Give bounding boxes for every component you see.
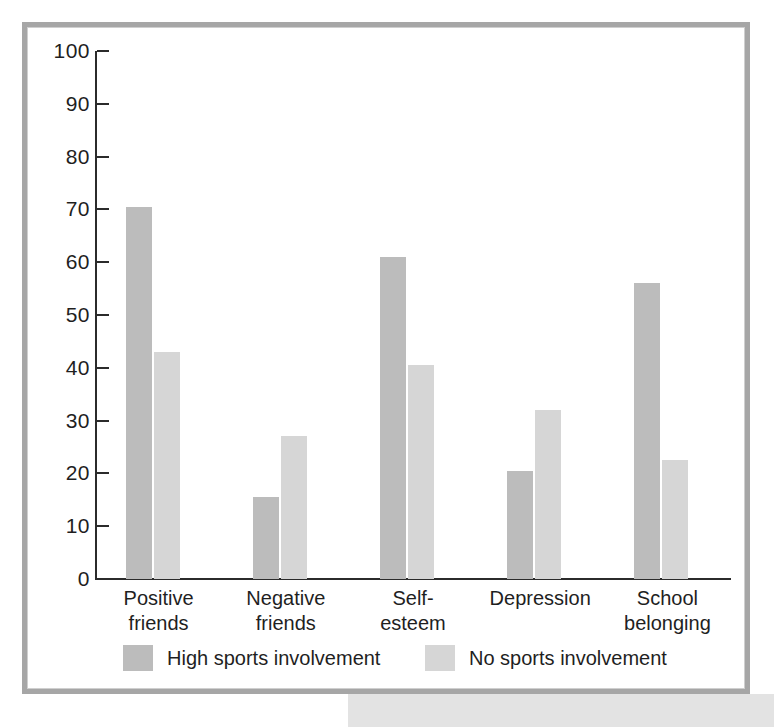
y-axis-tick-value: 0: [38, 568, 90, 589]
x-axis-category-label: Positivefriends: [85, 586, 232, 636]
bar: [126, 207, 152, 579]
x-axis-category-label: Negativefriends: [212, 586, 359, 636]
y-axis-tick-label: 80: [0, 146, 90, 167]
category-label-line1: School: [594, 586, 741, 611]
category-label-line1: Depression: [467, 586, 614, 611]
category-label-line2: belonging: [594, 611, 741, 636]
y-axis-tick-value: 80: [38, 146, 90, 167]
bar: [281, 436, 307, 579]
chart-legend: High sports involvementNo sports involve…: [95, 645, 731, 679]
y-axis-tick-value: 10: [38, 515, 90, 536]
bar: [253, 497, 279, 579]
y-axis-tick-label: 90: [0, 93, 90, 114]
legend-item: No sports involvement: [425, 645, 667, 671]
category-label-line1: Positive: [85, 586, 232, 611]
y-axis-tick-label: 0: [0, 568, 90, 589]
y-axis-tick-value: 60: [38, 251, 90, 272]
y-axis-tick-value: 90: [38, 93, 90, 114]
y-axis-tick-label: 60: [0, 251, 90, 272]
y-axis-tick-value: 50: [38, 304, 90, 325]
y-axis-tick-label: 20: [0, 462, 90, 483]
y-axis-tick-label: 100: [0, 40, 90, 61]
y-axis-tick-label: 30: [0, 410, 90, 431]
y-axis-tick-value: 20: [38, 462, 90, 483]
y-axis-tick-value: 30: [38, 410, 90, 431]
x-axis-category-labels: PositivefriendsNegativefriendsSelf-estee…: [95, 586, 731, 638]
bars-layer: [95, 51, 731, 579]
y-axis-tick-label: 40: [0, 357, 90, 378]
bar-chart: 1009080706050403020100 PositivefriendsNe…: [0, 0, 774, 727]
x-axis-category-label: Schoolbelonging: [594, 586, 741, 636]
category-label-line2: esteem: [339, 611, 486, 636]
bar: [634, 283, 660, 579]
category-label-line1: Negative: [212, 586, 359, 611]
category-label-line1: Self-: [339, 586, 486, 611]
category-label-line2: friends: [212, 611, 359, 636]
y-axis-tick-label: 50: [0, 304, 90, 325]
legend-swatch: [425, 645, 455, 671]
y-axis-tick-value: 100: [38, 40, 90, 61]
bar: [380, 257, 406, 579]
y-axis-tick-value: 40: [38, 357, 90, 378]
bar: [662, 460, 688, 579]
bar: [154, 352, 180, 579]
bar: [408, 365, 434, 579]
y-axis-tick-value: 70: [38, 198, 90, 219]
category-label-line2: friends: [85, 611, 232, 636]
legend-label: High sports involvement: [167, 648, 380, 668]
legend-swatch: [123, 645, 153, 671]
legend-item: High sports involvement: [123, 645, 380, 671]
legend-label: No sports involvement: [469, 648, 667, 668]
bar: [507, 471, 533, 579]
x-axis-category-label: Self-esteem: [339, 586, 486, 636]
bar: [535, 410, 561, 579]
y-axis-tick-label: 70: [0, 198, 90, 219]
y-axis-tick-label: 10: [0, 515, 90, 536]
x-axis-category-label: Depression: [467, 586, 614, 611]
